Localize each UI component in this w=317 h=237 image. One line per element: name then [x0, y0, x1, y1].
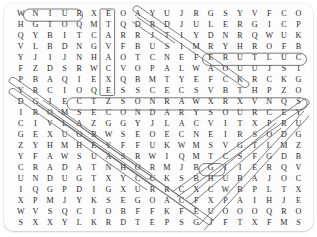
grid-cell-r17-c15[interactable]: A	[233, 196, 248, 206]
grid-cell-r11-c3[interactable]: U	[57, 130, 72, 140]
grid-cell-r0-c18[interactable]: C	[277, 9, 292, 19]
grid-cell-r17-c0[interactable]: X	[14, 196, 29, 206]
grid-cell-r2-c17[interactable]: W	[262, 31, 277, 41]
grid-cell-r7-c16[interactable]: H	[247, 86, 262, 96]
grid-cell-r2-c15[interactable]: R	[233, 31, 248, 41]
grid-cell-r3-c12[interactable]: M	[189, 42, 204, 52]
grid-cell-r13-c15[interactable]: S	[233, 152, 248, 162]
grid-cell-r15-c14[interactable]: U	[218, 174, 233, 184]
grid-cell-r15-c10[interactable]: K	[160, 174, 175, 184]
grid-cell-r11-c19[interactable]: G	[291, 130, 306, 140]
grid-cell-r6-c5[interactable]: E	[87, 75, 102, 85]
grid-cell-r17-c12[interactable]: F	[189, 196, 204, 206]
grid-cell-r6-c0[interactable]: P	[14, 75, 29, 85]
grid-cell-r12-c1[interactable]: Y	[28, 141, 43, 151]
grid-cell-r8-c5[interactable]: T	[87, 97, 102, 107]
grid-cell-r3-c14[interactable]: Y	[218, 42, 233, 52]
grid-cell-r9-c0[interactable]: I	[14, 108, 29, 118]
grid-cell-r9-c3[interactable]: M	[57, 108, 72, 118]
grid-cell-r8-c16[interactable]: V	[247, 97, 262, 107]
grid-cell-r5-c0[interactable]: F	[14, 64, 29, 74]
grid-cell-r1-c16[interactable]: G	[247, 20, 262, 30]
grid-cell-r8-c14[interactable]: R	[218, 97, 233, 107]
grid-cell-r12-c10[interactable]: K	[160, 141, 175, 151]
grid-cell-r9-c19[interactable]: Y	[291, 108, 306, 118]
grid-cell-r15-c12[interactable]: B	[189, 174, 204, 184]
grid-cell-r1-c0[interactable]: H	[14, 20, 29, 30]
grid-cell-r0-c13[interactable]: G	[204, 9, 219, 19]
grid-cell-r6-c4[interactable]: I	[72, 75, 87, 85]
grid-cell-r3-c13[interactable]: R	[204, 42, 219, 52]
grid-cell-r18-c4[interactable]: C	[72, 207, 87, 217]
grid-cell-r16-c11[interactable]: C	[174, 185, 189, 195]
grid-cell-r15-c4[interactable]: G	[72, 174, 87, 184]
grid-cell-r4-c5[interactable]: H	[87, 53, 102, 63]
grid-cell-r14-c10[interactable]: M	[160, 163, 175, 173]
grid-cell-r13-c11[interactable]: Q	[174, 152, 189, 162]
grid-cell-r4-c3[interactable]: J	[57, 53, 72, 63]
grid-cell-r18-c7[interactable]: B	[116, 207, 131, 217]
grid-cell-r10-c14[interactable]: I	[218, 119, 233, 129]
grid-cell-r13-c3[interactable]: W	[57, 152, 72, 162]
grid-cell-r19-c1[interactable]: X	[28, 218, 43, 228]
grid-cell-r12-c14[interactable]: V	[218, 141, 233, 151]
grid-cell-r14-c18[interactable]: Q	[277, 163, 292, 173]
grid-cell-r8-c8[interactable]: O	[130, 97, 145, 107]
grid-cell-r9-c9[interactable]: D	[145, 108, 160, 118]
grid-cell-r7-c8[interactable]: S	[130, 86, 145, 96]
grid-cell-r8-c6[interactable]: Z	[101, 97, 116, 107]
grid-cell-r14-c0[interactable]: C	[14, 163, 29, 173]
grid-cell-r9-c5[interactable]: E	[87, 108, 102, 118]
grid-cell-r11-c15[interactable]: R	[233, 130, 248, 140]
grid-cell-r15-c2[interactable]: D	[43, 174, 58, 184]
grid-cell-r10-c7[interactable]: G	[116, 119, 131, 129]
grid-cell-r14-c3[interactable]: D	[57, 163, 72, 173]
grid-cell-r5-c17[interactable]: J	[262, 64, 277, 74]
grid-cell-r2-c7[interactable]: R	[116, 31, 131, 41]
grid-cell-r17-c3[interactable]: J	[57, 196, 72, 206]
grid-cell-r12-c18[interactable]: M	[277, 141, 292, 151]
grid-cell-r4-c4[interactable]: N	[72, 53, 87, 63]
grid-cell-r18-c15[interactable]: O	[233, 207, 248, 217]
grid-cell-r4-c13[interactable]: E	[204, 53, 219, 63]
grid-cell-r2-c11[interactable]: I	[174, 31, 189, 41]
grid-cell-r17-c1[interactable]: P	[28, 196, 43, 206]
grid-cell-r5-c7[interactable]: V	[116, 64, 131, 74]
grid-cell-r5-c16[interactable]: U	[247, 64, 262, 74]
grid-cell-r3-c10[interactable]: S	[160, 42, 175, 52]
grid-cell-r3-c2[interactable]: B	[43, 42, 58, 52]
grid-cell-r4-c19[interactable]: C	[291, 53, 306, 63]
grid-cell-r10-c17[interactable]: P	[262, 119, 277, 129]
grid-cell-r13-c14[interactable]: C	[218, 152, 233, 162]
grid-cell-r7-c6[interactable]: E	[101, 86, 116, 96]
grid-cell-r6-c9[interactable]: M	[145, 75, 160, 85]
grid-cell-r5-c1[interactable]: Z	[28, 64, 43, 74]
grid-cell-r18-c14[interactable]: O	[218, 207, 233, 217]
grid-cell-r18-c8[interactable]: F	[130, 207, 145, 217]
grid-cell-r17-c2[interactable]: M	[43, 196, 58, 206]
grid-cell-r2-c16[interactable]: Q	[247, 31, 262, 41]
grid-cell-r1-c10[interactable]: D	[160, 20, 175, 30]
grid-cell-r11-c14[interactable]: I	[218, 130, 233, 140]
grid-cell-r6-c7[interactable]: Q	[116, 75, 131, 85]
grid-cell-r15-c5[interactable]: T	[87, 174, 102, 184]
grid-cell-r11-c12[interactable]: N	[189, 130, 204, 140]
grid-cell-r10-c9[interactable]: J	[145, 119, 160, 129]
grid-cell-r10-c5[interactable]: Z	[87, 119, 102, 129]
grid-cell-r2-c2[interactable]: B	[43, 31, 58, 41]
grid-cell-r16-c19[interactable]: X	[291, 185, 306, 195]
grid-cell-r0-c9[interactable]: Y	[145, 9, 160, 19]
grid-cell-r19-c4[interactable]: L	[72, 218, 87, 228]
grid-cell-r18-c11[interactable]: F	[174, 207, 189, 217]
grid-cell-r6-c1[interactable]: B	[28, 75, 43, 85]
grid-cell-r14-c5[interactable]: T	[87, 163, 102, 173]
grid-cell-r8-c1[interactable]: G	[28, 97, 43, 107]
grid-cell-r13-c4[interactable]: S	[72, 152, 87, 162]
grid-cell-r9-c4[interactable]: S	[72, 108, 87, 118]
grid-cell-r14-c9[interactable]: R	[145, 163, 160, 173]
grid-cell-r19-c7[interactable]: D	[116, 218, 131, 228]
grid-cell-r9-c14[interactable]: O	[218, 108, 233, 118]
grid-cell-r14-c13[interactable]: G	[204, 163, 219, 173]
grid-cell-r3-c16[interactable]: R	[247, 42, 262, 52]
grid-cell-r5-c5[interactable]: W	[87, 64, 102, 74]
